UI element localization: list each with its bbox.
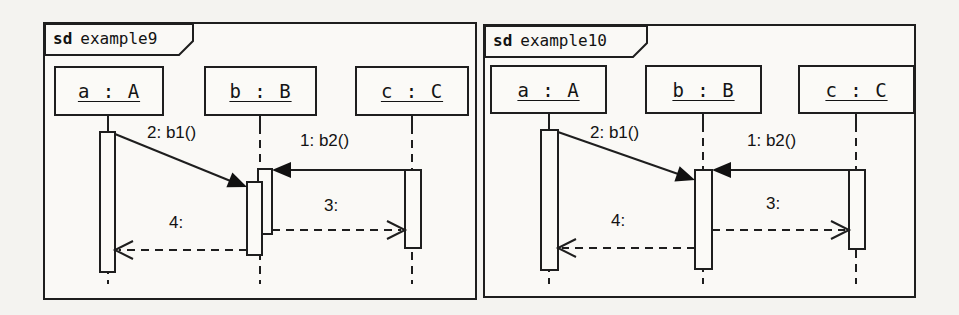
sequence-diagram-frame-example10: sdexample10 a : A b : B c : C 2: b1() 1:… [483, 24, 916, 298]
activation-bar-c [405, 170, 421, 248]
frame-title: sdexample9 [53, 28, 157, 50]
lifeline-head-c: c : C [355, 66, 469, 116]
frame-name: example10 [520, 31, 607, 50]
lifeline-head-a: a : A [490, 65, 607, 114]
message-2-label: 2: b1() [147, 123, 196, 142]
lifeline-label-c: c : C [381, 80, 443, 102]
message-3-label: 3: [766, 194, 780, 213]
lifeline-head-a: a : A [54, 66, 164, 116]
message-1-label: 1: b2() [300, 131, 349, 150]
frame-title: sdexample10 [493, 30, 607, 52]
message-1-filled-arrowhead [712, 162, 731, 178]
lifeline-label-a: a : A [517, 79, 579, 101]
message-1-filled-arrowhead [272, 162, 291, 178]
sd-keyword: sd [493, 31, 512, 50]
message-1-label: 1: b2() [747, 131, 796, 150]
activation-bar-b-left [247, 182, 262, 255]
sd-keyword: sd [53, 29, 72, 48]
activation-bar-c [849, 170, 865, 249]
lifeline-head-b: b : B [204, 66, 317, 116]
activation-bar-a [100, 132, 115, 272]
lifeline-head-b: b : B [645, 65, 762, 114]
activation-bar-a [541, 130, 558, 270]
message-2-label: 2: b1() [590, 123, 639, 142]
lifeline-label-b: b : B [229, 80, 291, 102]
message-4-label: 4: [611, 211, 625, 230]
lifeline-label-c: c : C [825, 79, 887, 101]
lifeline-label-a: a : A [78, 80, 140, 102]
lifeline-label-b: b : B [672, 79, 734, 101]
message-3-label: 3: [324, 196, 338, 215]
activation-bar-b [695, 170, 712, 269]
message-4-label: 4: [169, 213, 183, 232]
lifeline-head-c: c : C [798, 65, 915, 114]
scanned-uml-figure: { "colors": { "ink": "#1e1e1e", "paper":… [0, 0, 959, 315]
frame-name: example9 [80, 29, 157, 48]
sequence-diagram-frame-example9: sdexample9 a : A b : B c : C 2: b1() 1: … [43, 22, 477, 300]
